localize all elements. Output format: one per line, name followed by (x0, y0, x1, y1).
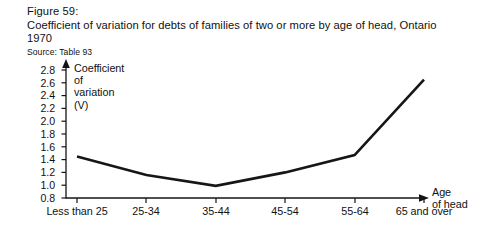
y-axis-arrowhead (62, 59, 70, 68)
ytick-label: 2.8 (29, 65, 55, 76)
y-axis-title-line: variation (74, 86, 164, 98)
ytick-label: 1.4 (29, 154, 55, 165)
ytick-label: 1.0 (29, 180, 55, 191)
ytick-label: 2.2 (29, 103, 55, 114)
ytick-label: 0.8 (29, 193, 55, 204)
chart-plot-area: 0.8 1.0 1.2 1.4 1.6 1.8 2.0 2.2 2.4 2.6 … (0, 0, 488, 232)
ytick-label: 2.0 (29, 116, 55, 127)
x-axis-title-line: Age (432, 186, 488, 198)
figure-container: Figure 59: Coefficient of variation for … (0, 0, 488, 232)
ytick-label: 1.2 (29, 167, 55, 178)
y-axis-title: Coefficient of variation (V) (74, 62, 164, 111)
y-axis-title-line: (V) (74, 99, 164, 111)
ytick-label: 2.4 (29, 90, 55, 101)
xtick-label: 25-34 (106, 206, 186, 217)
y-axis-title-line: of (74, 74, 164, 86)
x-tick-marks (77, 198, 424, 203)
ytick-label: 2.6 (29, 78, 55, 89)
y-axis-title-line: Coefficient (74, 62, 164, 74)
y-tick-marks (62, 70, 67, 198)
ytick-label: 1.8 (29, 129, 55, 140)
ytick-label: 1.6 (29, 142, 55, 153)
xtick-label: 35-44 (176, 206, 256, 217)
xtick-label: 45-54 (245, 206, 325, 217)
x-axis-title: Age of head (432, 186, 488, 210)
chart-svg (0, 0, 488, 232)
x-axis-title-line: of head (432, 198, 488, 210)
